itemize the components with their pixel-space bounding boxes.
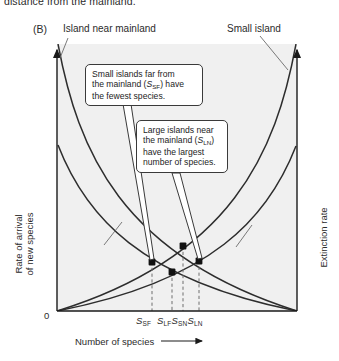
callout-large-near-line4: number of species. (143, 157, 222, 167)
callout-large-near-line2-b: ) (211, 135, 214, 145)
callout-leaders (0, 0, 339, 361)
callout-small-far-line3: the fewest species. (92, 91, 197, 101)
callout-small-islands-far: Small islands far from the mainland (SSF… (85, 64, 203, 106)
callout-small-far-line2-a: the mainland ( (92, 79, 146, 89)
callout-small-far-line1: Small islands far from (92, 69, 197, 79)
figure-panel-b: distance from the mainland. (B) (0, 0, 339, 361)
callout-large-near-line3: have the largest (143, 147, 222, 157)
callout-small-far-subscript: SF (152, 83, 160, 90)
leader-callout-large-near (172, 173, 202, 259)
callout-large-islands-near: Large islands near the mainland (SLN) ha… (136, 120, 228, 173)
callout-large-near-line2-a: the mainland ( (143, 135, 197, 145)
callout-large-near-line2: the mainland (SLN) (143, 135, 222, 146)
callout-large-near-line1: Large islands near (143, 125, 222, 135)
callout-small-far-line2: the mainland (SSF) have (92, 79, 197, 90)
callout-small-far-line2-b: ) have (160, 79, 184, 89)
callout-large-near-subscript: LN (203, 139, 211, 146)
